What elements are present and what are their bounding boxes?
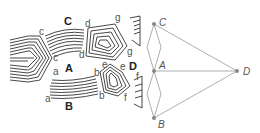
label-c-bottom: c (53, 52, 58, 63)
label-d-bottom: d (79, 49, 85, 60)
node-label-C: C (159, 17, 167, 28)
label-b-top: b (94, 67, 100, 78)
node-label-B: B (158, 119, 165, 130)
label-g-bottom: g (127, 46, 133, 57)
label-f-right: f (136, 71, 139, 82)
edge-A-B (147, 71, 161, 118)
node-A (152, 69, 156, 73)
grain-B (50, 76, 98, 99)
label-g-top: g (115, 12, 121, 23)
node-label-D: D (243, 66, 250, 77)
edge-C-D (154, 24, 237, 71)
grain-d-g-pentagon (86, 24, 127, 60)
node-B (152, 116, 156, 120)
label-d-top: d (85, 18, 91, 29)
label-grain-B: B (65, 100, 73, 112)
figure: c c C d d g g A a a b b e e D f f B C A … (0, 0, 260, 133)
label-f-bottom: f (124, 92, 127, 103)
node-D (235, 69, 239, 73)
label-b-bottom: b (99, 90, 105, 101)
label-c-top: c (39, 26, 44, 37)
grain-left-chevron (10, 36, 52, 82)
label-e-left: e (102, 59, 108, 70)
edge-B-D (154, 71, 237, 118)
label-grain-A: A (65, 62, 73, 74)
label-grain-C: C (64, 15, 72, 27)
label-a-top: a (53, 66, 59, 77)
node-label-A: A (158, 60, 166, 71)
node-C (152, 22, 156, 26)
label-a-bottom: a (45, 93, 51, 104)
lamellar-grains-panel: c c C d d g g A a a b b e e D f f B (10, 12, 142, 112)
label-e-right: e (120, 61, 126, 72)
grain-graph-panel: C A B D (147, 17, 250, 130)
grain-right-edge-top (130, 16, 140, 46)
